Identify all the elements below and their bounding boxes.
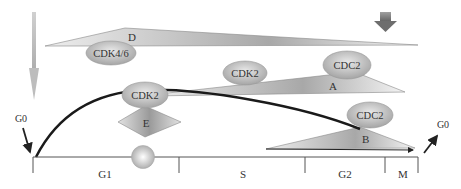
g0-exit-label: G0 bbox=[437, 119, 449, 130]
cyclin-d-label: D bbox=[128, 31, 136, 43]
phase-label-m: M bbox=[398, 168, 408, 180]
g0-entry-arrow-icon bbox=[23, 128, 30, 152]
cdk2-a-label: CDK2 bbox=[231, 68, 258, 79]
cyclin-b-label: B bbox=[362, 133, 369, 145]
cdk46-node: CDK4/6 bbox=[86, 41, 136, 65]
phase-timeline bbox=[33, 157, 418, 173]
cdc2-a-label: CDC2 bbox=[334, 60, 361, 71]
g0-exit-arrow-icon bbox=[424, 136, 437, 153]
cyclin-b-wedge: B bbox=[266, 127, 415, 150]
cdk2-e-node: CDK2 bbox=[122, 82, 168, 108]
cdc2-a-node: CDC2 bbox=[323, 51, 371, 79]
phase-label-s: S bbox=[240, 168, 246, 180]
restriction-point-ball bbox=[132, 146, 155, 169]
diagram-canvas: D CDK4/6 A B CDK2 CDC2 E CDK2 CDC2 bbox=[0, 0, 461, 189]
cyclin-e-diamond: E bbox=[118, 106, 181, 137]
cdk46-label: CDK4/6 bbox=[93, 48, 129, 59]
cyclin-e-label: E bbox=[143, 117, 150, 129]
cell-cycle-diagram: D CDK4/6 A B CDK2 CDC2 E CDK2 CDC2 bbox=[0, 0, 461, 189]
dark-down-arrow-icon bbox=[374, 12, 397, 32]
gray-down-arrow-icon bbox=[29, 12, 39, 100]
phase-label-g2: G2 bbox=[338, 168, 351, 180]
cdk2-e-label: CDK2 bbox=[131, 90, 158, 101]
cyclin-a-label: A bbox=[329, 80, 337, 92]
cdk2-a-node: CDK2 bbox=[223, 61, 267, 85]
phase-label-g1: G1 bbox=[98, 168, 111, 180]
g0-entry-label: G0 bbox=[15, 113, 27, 124]
cdc2-b-label: CDC2 bbox=[357, 110, 384, 121]
cdc2-b-node: CDC2 bbox=[347, 102, 393, 128]
